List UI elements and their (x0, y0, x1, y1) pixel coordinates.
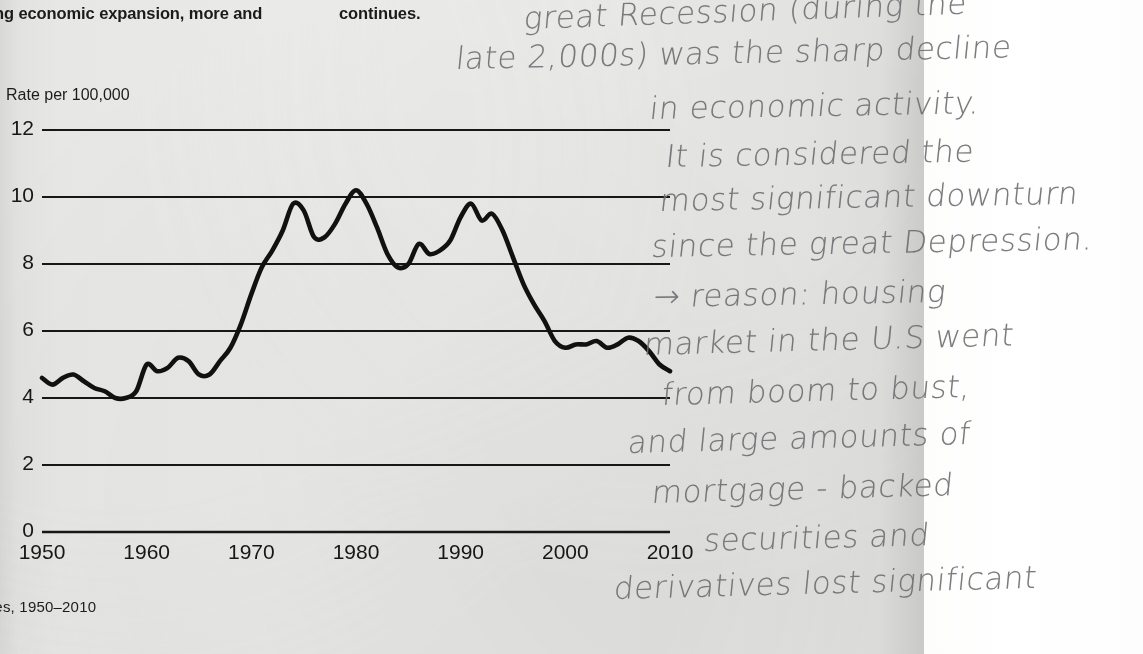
y-tick-label: 2 (0, 451, 34, 475)
y-tick-label: 0 (0, 518, 34, 542)
figure-caption: tes, 1950–2010 (0, 598, 96, 615)
x-tick-label: 2010 (630, 540, 710, 564)
chart-y-axis-title: Rate per 100,000 (6, 86, 130, 104)
x-tick-label: 1980 (316, 540, 396, 564)
y-tick-label: 4 (0, 384, 34, 408)
y-tick-label: 10 (0, 183, 34, 207)
y-tick-label: 6 (0, 317, 34, 341)
white-background-right (924, 0, 1143, 654)
chart-series-line (42, 190, 670, 399)
photographed-textbook-page: ng economic expansion, more and continue… (0, 0, 1143, 654)
printed-body-text-right: continues. (339, 4, 421, 23)
line-chart: 024681012 1950196019701980199020002010 (0, 110, 700, 550)
x-tick-label: 1950 (2, 540, 82, 564)
y-tick-label: 12 (0, 116, 34, 140)
x-tick-label: 1990 (421, 540, 501, 564)
y-tick-label: 8 (0, 250, 34, 274)
x-tick-label: 1960 (107, 540, 187, 564)
chart-canvas (0, 110, 700, 550)
x-tick-label: 1970 (211, 540, 291, 564)
x-tick-label: 2000 (525, 540, 605, 564)
printed-body-text-left: ng economic expansion, more and (0, 4, 262, 23)
